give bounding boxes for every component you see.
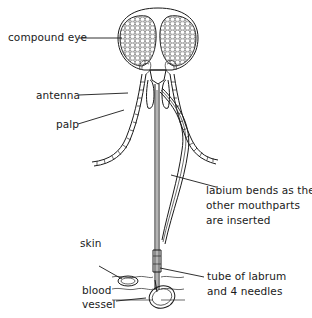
skin-layers	[112, 276, 185, 300]
label-labium-line2: other mouthparts	[206, 199, 300, 212]
leader-skin	[99, 266, 122, 279]
right-antenna	[170, 74, 218, 164]
leader-tube	[160, 268, 204, 277]
label-compound-eye: compound eye	[8, 31, 87, 44]
leader-palp	[78, 110, 124, 124]
blood-vessels	[118, 276, 178, 312]
left-compound-eye	[120, 16, 156, 66]
label-blood: blood	[82, 284, 112, 297]
leader-vessel	[116, 298, 146, 301]
leader-antenna	[79, 93, 128, 95]
proboscis	[153, 84, 161, 290]
label-vessel: vessel	[82, 298, 116, 311]
labium	[160, 88, 189, 244]
label-tube-line1: tube of labrum	[207, 270, 286, 283]
label-labium-line1: labium bends as the	[206, 184, 312, 197]
label-tube-line2: and 4 needles	[207, 285, 283, 298]
label-antenna: antenna	[36, 89, 80, 102]
label-labium-line3: are inserted	[206, 214, 271, 227]
mosquito-mouthparts-diagram: compound eye antenna palp labium bends a…	[0, 0, 312, 318]
label-skin: skin	[80, 237, 102, 250]
label-palp: palp	[56, 118, 79, 131]
right-compound-eye	[160, 16, 196, 66]
left-antenna	[92, 74, 146, 166]
head	[118, 8, 198, 84]
leader-lines	[78, 38, 216, 301]
